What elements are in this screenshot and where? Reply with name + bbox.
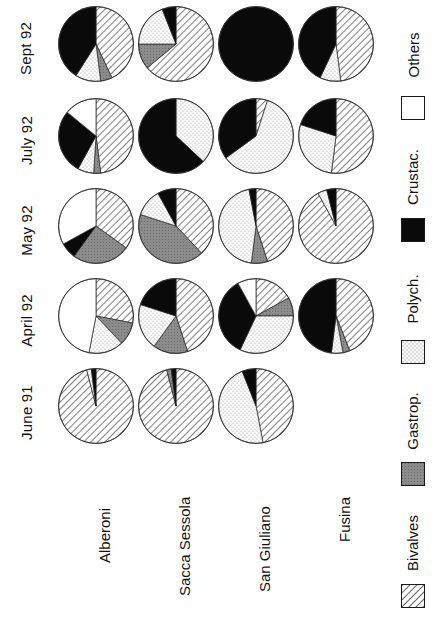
column-label-text: San Giuliano bbox=[256, 506, 273, 592]
legend-label-box: Others bbox=[401, 18, 425, 96]
pie-san-giuliano-may-92-slice-polychaetes bbox=[219, 189, 256, 263]
column-label-text: Fusina bbox=[336, 497, 353, 542]
legend-swatch-others bbox=[401, 96, 425, 120]
legend-item-bivalves: Bivalves bbox=[388, 506, 438, 608]
legend-item-polych: Polych. bbox=[388, 262, 438, 364]
column-label-alberoni: Alberoni bbox=[96, 453, 116, 563]
pie-fusina-april-92 bbox=[298, 278, 374, 354]
pie-fusina-sept-92-slice-bivalves bbox=[336, 7, 373, 82]
pie-alberoni-may-92 bbox=[58, 188, 134, 264]
pie-alberoni-april-92-slice-bivalves bbox=[96, 279, 133, 323]
legend-item-others: Others bbox=[388, 18, 438, 120]
pie-san-giuliano-june-91-slice-bivalves bbox=[256, 369, 293, 443]
pie-fusina-april-92-slice-crustaceans bbox=[299, 279, 336, 354]
column-label-fusina: Fusina bbox=[336, 432, 356, 542]
pie-san-giuliano-june-91 bbox=[218, 368, 294, 444]
column-label-text: Alberoni bbox=[96, 508, 113, 563]
column-label-text: Sacca Sessola bbox=[176, 497, 193, 596]
pie-alberoni-april-92-slice-others bbox=[59, 279, 96, 353]
row-label-may-92: May 92 bbox=[0, 186, 52, 274]
pie-sacca-sessola-june-91 bbox=[138, 368, 214, 444]
legend-label: Others bbox=[401, 32, 425, 77]
row-label-sept-92: Sept 92 bbox=[0, 4, 52, 92]
legend-label: Crustac. bbox=[401, 149, 425, 205]
figure-root: Sept 92 July 92 May 92 April 92 June 91 … bbox=[0, 0, 440, 625]
legend-swatch-bivalves bbox=[401, 584, 425, 608]
legend-label-box: Gastrop. bbox=[401, 384, 425, 462]
pie-alberoni-july-92-slice-bivalves bbox=[96, 99, 133, 174]
pie-fusina-sept-92 bbox=[298, 6, 374, 82]
pie-fusina-july-92 bbox=[298, 98, 374, 174]
legend-label-box: Polych. bbox=[401, 262, 425, 340]
row-label-text: Sept 92 bbox=[18, 21, 35, 74]
legend-label: Gastrop. bbox=[401, 392, 425, 450]
legend-label: Polych. bbox=[401, 274, 425, 323]
column-label-sacca-sessola: Sacca Sessola bbox=[176, 486, 196, 596]
pie-fusina-may-92 bbox=[298, 188, 374, 264]
legend-swatch-polych bbox=[401, 340, 425, 364]
pie-sacca-sessola-sept-92 bbox=[138, 6, 214, 82]
row-label-text: July 92 bbox=[18, 116, 35, 165]
legend-swatch-crustac bbox=[401, 218, 425, 242]
pie-alberoni-july-92 bbox=[58, 98, 134, 174]
pie-san-giuliano-may-92 bbox=[218, 188, 294, 264]
legend-label-box: Bivalves bbox=[401, 506, 425, 584]
column-label-san-giuliano: San Giuliano bbox=[256, 482, 276, 592]
row-label-text: June 91 bbox=[18, 385, 35, 440]
legend: Others Crustac. Polych. Gastrop. Bivalve… bbox=[386, 0, 438, 625]
legend-item-crustac: Crustac. bbox=[388, 140, 438, 242]
legend-item-gastrop: Gastrop. bbox=[388, 384, 438, 486]
pie-sacca-sessola-april-92 bbox=[138, 278, 214, 354]
row-label-april-92: April 92 bbox=[0, 276, 52, 364]
pie-alberoni-june-91 bbox=[58, 368, 134, 444]
row-label-text: April 92 bbox=[18, 294, 35, 346]
pie-sacca-sessola-may-92 bbox=[138, 188, 214, 264]
legend-label: Bivalves bbox=[401, 515, 425, 571]
pie-san-giuliano-july-92 bbox=[218, 98, 294, 174]
pie-alberoni-sept-92 bbox=[58, 6, 134, 82]
legend-swatch-gastrop bbox=[401, 462, 425, 486]
pie-sacca-sessola-july-92 bbox=[138, 98, 214, 174]
pie-alberoni-april-92 bbox=[58, 278, 134, 354]
pie-fusina-july-92-slice-bivalves bbox=[331, 99, 373, 174]
row-label-june-91: June 91 bbox=[0, 368, 52, 456]
legend-label-box: Crustac. bbox=[401, 140, 425, 218]
pie-san-giuliano-sept-92 bbox=[218, 6, 294, 82]
row-label-text: May 92 bbox=[17, 205, 34, 255]
row-label-july-92: July 92 bbox=[0, 96, 52, 184]
pie-san-giuliano-april-92 bbox=[218, 278, 294, 354]
